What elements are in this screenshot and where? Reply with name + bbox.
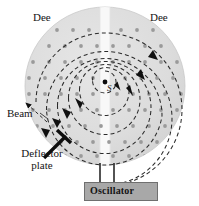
dee-left-label: Dee — [33, 12, 51, 24]
oscillator-leads — [100, 163, 114, 182]
dee-right-label: Dee — [150, 12, 168, 24]
oscillator-label: Oscillator — [90, 186, 134, 197]
source-label: S — [107, 84, 112, 93]
deflector-plate-label: Deflectorplate — [9, 148, 75, 171]
deflector-label-line1: Deflector — [21, 147, 63, 159]
dee-disc-group — [25, 0, 185, 170]
deflector-label-line2: plate — [31, 159, 52, 171]
cyclotron-figure: Oscillator Dee Dee S Beam Deflectorplate — [0, 0, 199, 206]
beam-label: Beam — [7, 108, 33, 120]
cyclotron-diagram-svg — [0, 0, 199, 206]
